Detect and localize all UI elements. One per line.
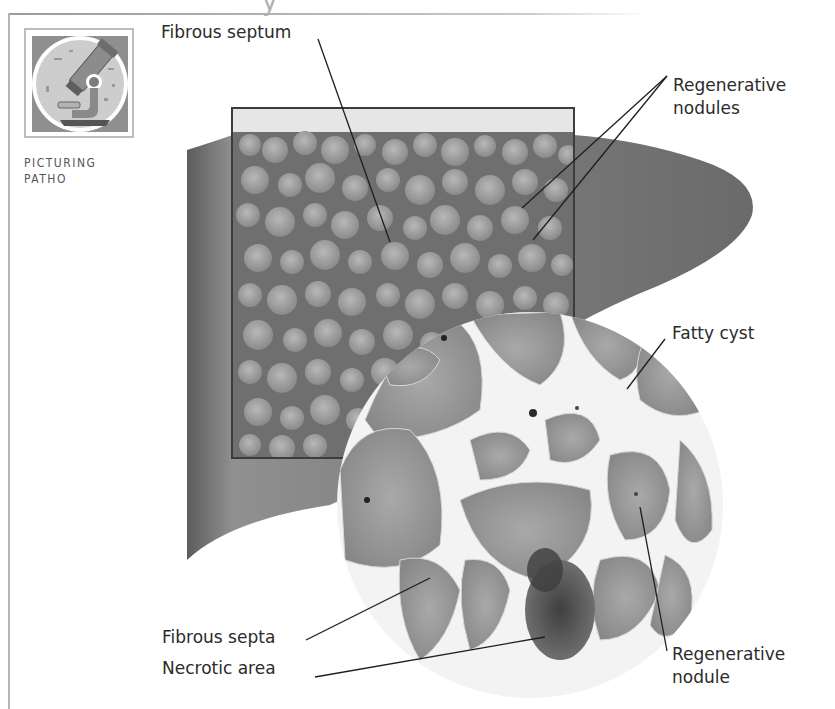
label-regenerative-nodule-line1: Regenerative	[672, 643, 785, 666]
label-regenerative-nodules: Regenerative nodules	[673, 74, 786, 120]
label-fatty-cyst: Fatty cyst	[672, 322, 754, 345]
label-regenerative-nodules-line1: Regenerative	[673, 74, 786, 97]
label-regenerative-nodule: Regenerative nodule	[672, 643, 785, 689]
label-fibrous-septa: Fibrous septa	[162, 626, 275, 649]
label-regenerative-nodule-line2: nodule	[672, 666, 785, 689]
label-regenerative-nodules-line2: nodules	[673, 97, 786, 120]
label-necrotic-area: Necrotic area	[162, 657, 276, 680]
label-fibrous-septum: Fibrous septum	[161, 21, 291, 44]
